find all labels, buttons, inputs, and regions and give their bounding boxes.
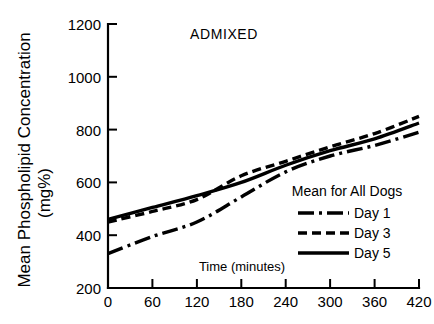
x-tick-label-420: 420 <box>406 293 431 310</box>
y-tick-label-400: 400 <box>76 227 101 244</box>
y-tick-label-1000: 1000 <box>68 69 101 86</box>
x-axis-tick-labels: 0 60 120 180 240 300 360 420 <box>104 293 432 310</box>
y-tick-label-600: 600 <box>76 174 101 191</box>
x-tick-label-240: 240 <box>273 293 298 310</box>
x-tick-label-60: 60 <box>144 293 161 310</box>
y-tick-label-200: 200 <box>76 280 101 297</box>
legend-label-day-1: Day 1 <box>354 205 391 221</box>
x-tick-label-300: 300 <box>318 293 343 310</box>
chart-canvas: Mean Phospholipid Concentration (mg%) AD… <box>0 0 434 324</box>
x-tick-label-0: 0 <box>104 293 112 310</box>
chart-legend: Mean for All Dogs Day 1 Day 3 Day 5 <box>292 183 403 261</box>
y-axis-title-line1: Mean Phospholipid Concentration <box>15 32 34 287</box>
y-axis-tick-labels: 1200 1000 800 600 400 200 <box>68 16 101 297</box>
y-axis-title-line2: (mg%) <box>35 168 54 218</box>
panel-title: ADMIXED <box>190 26 258 42</box>
x-tick-label-180: 180 <box>229 293 254 310</box>
legend-label-day-5: Day 5 <box>354 245 391 261</box>
x-tick-label-360: 360 <box>362 293 387 310</box>
y-tick-label-1200: 1200 <box>68 16 101 33</box>
y-tick-label-800: 800 <box>76 122 101 139</box>
x-axis-ticks <box>108 279 419 288</box>
y-axis-ticks <box>108 24 117 288</box>
chart-figure: Mean Phospholipid Concentration (mg%) AD… <box>0 0 434 324</box>
x-axis-title: Time (minutes) <box>199 259 285 274</box>
legend-title: Mean for All Dogs <box>292 183 403 199</box>
x-tick-label-120: 120 <box>184 293 209 310</box>
legend-label-day-3: Day 3 <box>354 225 391 241</box>
